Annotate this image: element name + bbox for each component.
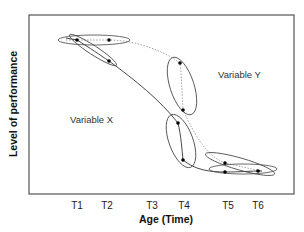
variable-x-label: Variable X (70, 114, 114, 125)
x-axis-title: Age (Time) (139, 213, 193, 225)
point-x-t2 (107, 59, 111, 63)
series-y-line (66, 40, 262, 171)
data-points (75, 38, 260, 174)
point-y-t4 (181, 108, 185, 112)
point-y-t2 (107, 38, 111, 42)
point-x-t4 (181, 158, 185, 162)
point-t6 (256, 169, 260, 173)
series-x-line (66, 38, 262, 172)
point-x-t3 (176, 121, 180, 125)
tick-t4: T4 (178, 200, 190, 211)
point-t1 (75, 38, 79, 42)
tick-t6: T6 (252, 200, 264, 211)
tick-t1: T1 (71, 200, 83, 211)
chart: Variable Y Variable X T1 T2 T3 T4 T5 T6 … (0, 0, 304, 232)
tick-t5: T5 (222, 200, 234, 211)
ellipses (58, 31, 277, 180)
point-y-t3 (178, 61, 182, 65)
tick-t2: T2 (101, 200, 113, 211)
ellipse-x-t5-t6 (209, 164, 277, 174)
y-axis-title: Level of performance (7, 51, 19, 157)
variable-y-label: Variable Y (218, 69, 262, 80)
point-x-t5 (223, 170, 227, 174)
point-y-t5 (223, 161, 227, 165)
tick-t3: T3 (146, 200, 158, 211)
x-tick-labels: T1 T2 T3 T4 T5 T6 (71, 200, 264, 211)
